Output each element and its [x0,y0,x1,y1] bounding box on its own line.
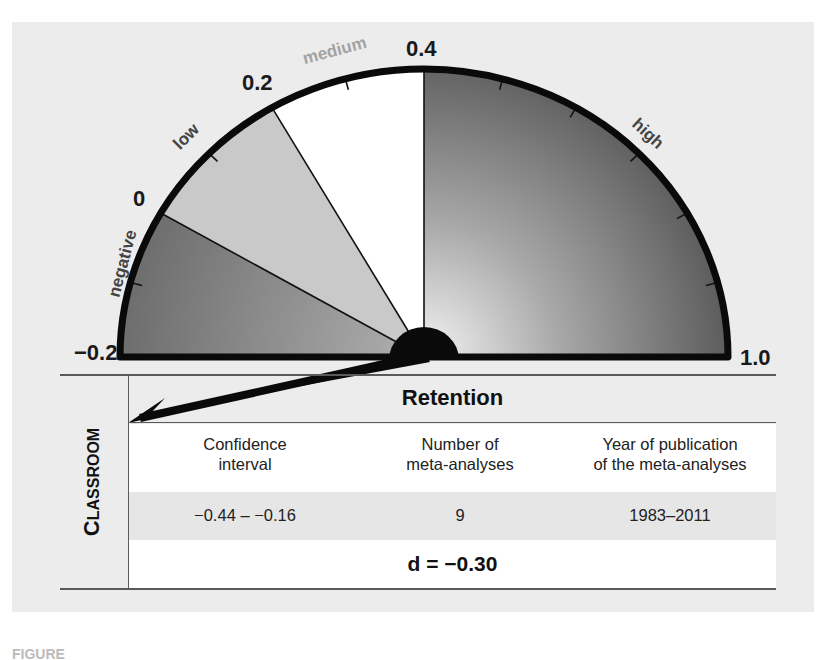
header-num-line1: Number of [370,434,550,454]
header-year-line1: Year of publication [565,434,775,454]
header-year-line2: of the meta-analyses [565,454,775,474]
tick-label-04: 0.4 [406,38,437,60]
value-confidence-interval: −0.44 – −0.16 [160,506,330,525]
header-confidence-interval: Confidence interval [160,434,330,474]
value-year-publication: 1983–2011 [565,506,775,525]
effect-size: d = −0.30 [129,552,776,576]
tick-label-10: 1.0 [740,347,771,369]
header-ci-line2: interval [160,454,330,474]
zone-high [424,69,728,357]
header-num-line2: meta-analyses [370,454,550,474]
value-number-meta-analyses: 9 [370,506,550,525]
table-title-line [129,422,776,423]
tick-label-02: 0.2 [242,72,273,94]
table-title: Retention [129,385,776,411]
table-bottom-line [60,588,776,590]
side-label-rest: LASSROOM [85,428,102,520]
table-top-line [60,374,776,376]
side-label-cap: C [79,520,104,536]
tick-label-0: 0 [133,188,145,210]
header-ci-line1: Confidence [160,434,330,454]
figure-caption: FIGURE [12,646,65,660]
header-number-meta-analyses: Number of meta-analyses [370,434,550,474]
tick-label-neg02: −0.2 [74,342,117,364]
header-year-publication: Year of publication of the meta-analyses [565,434,775,474]
side-label-classroom: CLASSROOM [79,428,105,536]
